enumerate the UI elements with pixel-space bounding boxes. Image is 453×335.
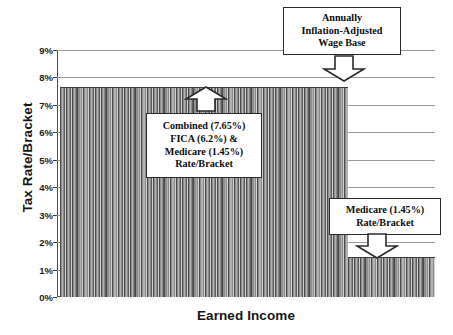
callout-wage-base-line-3: Wage Base — [288, 37, 396, 50]
gridline — [57, 77, 435, 78]
bar-segment — [348, 257, 435, 297]
callout-combined-line-1: Combined (7.65%) — [151, 120, 257, 133]
x-axis-title: Earned Income — [57, 308, 435, 323]
y-axis-tick — [53, 270, 57, 271]
y-axis-tick-label: 7% — [19, 99, 53, 110]
y-axis-tick — [53, 187, 57, 188]
y-axis-tick — [53, 105, 57, 106]
callout-combined-line-2: FICA (6.2%) & — [151, 133, 257, 146]
callout-wage-base-line-1: Annually — [288, 12, 396, 25]
callout-combined-rate: Combined (7.65%) FICA (6.2%) & Medicare … — [146, 113, 262, 178]
y-axis-tick-label: 2% — [19, 237, 53, 248]
callout-medicare-line-2: Rate/Bracket — [334, 217, 436, 230]
y-axis-tick — [53, 132, 57, 133]
y-axis-tick-label: 4% — [19, 182, 53, 193]
y-axis-tick-label: 9% — [19, 45, 53, 56]
arrow-down-medicare-icon — [355, 233, 399, 260]
y-axis-tick-label: 6% — [19, 127, 53, 138]
y-axis-tick — [53, 242, 57, 243]
y-axis-tick — [53, 160, 57, 161]
callout-wage-base: Annually Inflation-Adjusted Wage Base — [283, 7, 401, 55]
y-axis-tick — [53, 215, 57, 216]
callout-medicare-line-1: Medicare (1.45%) — [334, 204, 436, 217]
callout-combined-line-3: Medicare (1.45%) — [151, 146, 257, 159]
y-axis-tick-labels: 9%8%7%6%5%4%3%2%1%0% — [15, 50, 53, 297]
callout-medicare-rate: Medicare (1.45%) Rate/Bracket — [329, 198, 441, 235]
chart-canvas: Tax Rate/Bracket 9%8%7%6%5%4%3%2%1%0% Ea… — [0, 0, 453, 335]
y-axis-tick-label: 0% — [19, 292, 53, 303]
y-axis-tick-label: 3% — [19, 209, 53, 220]
y-axis-tick — [53, 297, 57, 298]
callout-wage-base-line-2: Inflation-Adjusted — [288, 25, 396, 38]
y-axis-tick-label: 5% — [19, 154, 53, 165]
y-axis-tick — [53, 77, 57, 78]
y-axis-tick — [53, 50, 57, 51]
y-axis-tick-label: 8% — [19, 72, 53, 83]
arrow-up-combined-icon — [184, 85, 228, 113]
callout-combined-line-4: Rate/Bracket — [151, 158, 257, 171]
arrow-down-wage-base-icon — [322, 55, 366, 83]
y-axis-tick-label: 1% — [19, 264, 53, 275]
